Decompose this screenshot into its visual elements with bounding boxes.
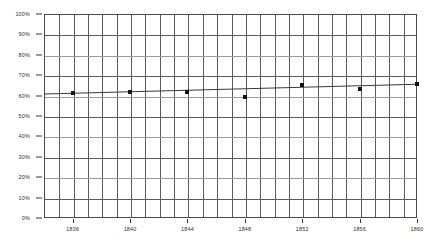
data-point <box>243 95 247 99</box>
x-axis-tick-label: 1844 <box>181 226 194 232</box>
y-axis-tick-label: 0% <box>22 215 30 221</box>
gridline-vertical <box>88 15 89 217</box>
y-axis-tick-label: 50% <box>19 113 30 119</box>
gridline-horizontal <box>45 178 416 179</box>
y-axis-tick-mark <box>36 218 42 219</box>
y-axis-tick-mark <box>36 14 42 15</box>
gridline-vertical <box>275 15 276 217</box>
y-axis-label-group: 100%90%80%70%60%50%40%30%20%10%0% <box>0 0 30 241</box>
gridline-vertical <box>361 15 362 217</box>
data-point <box>185 90 189 94</box>
gridline-vertical <box>59 15 60 217</box>
gridline-vertical <box>74 15 75 217</box>
x-axis-tick-label: 1840 <box>124 226 137 232</box>
gridline-horizontal <box>45 97 416 98</box>
y-axis-tick-label: 70% <box>19 72 30 78</box>
x-axis-tick-mark <box>245 219 246 223</box>
y-axis-tick-label: 100% <box>15 11 30 17</box>
gridline-vertical <box>102 15 103 217</box>
gridline-horizontal <box>45 56 416 57</box>
y-axis-tick-mark <box>36 156 42 157</box>
data-point <box>71 91 75 95</box>
y-axis-tick-mark <box>36 197 42 198</box>
y-axis-tick-label: 90% <box>19 31 30 37</box>
y-axis-tick-label: 30% <box>19 154 30 160</box>
data-point <box>415 82 419 86</box>
gridline-vertical <box>318 15 319 217</box>
gridline-vertical <box>389 15 390 217</box>
y-axis-tick-mark <box>36 54 42 55</box>
chart-container: 100%90%80%70%60%50%40%30%20%10%0% 183618… <box>0 0 433 241</box>
gridline-vertical <box>131 15 132 217</box>
gridline-vertical <box>404 15 405 217</box>
y-axis-tick-mark <box>36 95 42 96</box>
gridline-vertical <box>346 15 347 217</box>
x-axis-tick-label: 1856 <box>353 226 366 232</box>
gridline-horizontal <box>45 158 416 159</box>
gridline-vertical <box>332 15 333 217</box>
gridline-horizontal <box>45 199 416 200</box>
y-axis-tick-label: 80% <box>19 52 30 58</box>
gridline-vertical <box>160 15 161 217</box>
gridline-vertical <box>188 15 189 217</box>
data-point <box>358 87 362 91</box>
x-axis-tick-label: 1848 <box>238 226 251 232</box>
x-axis-tick-mark <box>187 219 188 223</box>
y-axis-tick-label: 60% <box>19 93 30 99</box>
y-axis-tick-mark <box>36 177 42 178</box>
gridline-horizontal <box>45 117 416 118</box>
gridline-vertical <box>375 15 376 217</box>
gridline-vertical <box>303 15 304 217</box>
gridline-horizontal <box>45 35 416 36</box>
x-axis-tick-label: 1852 <box>296 226 309 232</box>
y-axis-tick-label: 20% <box>19 174 30 180</box>
gridline-vertical <box>203 15 204 217</box>
x-axis-tick-mark <box>130 219 131 223</box>
gridline-vertical <box>174 15 175 217</box>
y-axis-tick-mark <box>36 75 42 76</box>
gridline-vertical <box>217 15 218 217</box>
x-axis-tick-mark <box>360 219 361 223</box>
x-axis-tick-label: 1860 <box>411 226 424 232</box>
data-point <box>300 83 304 87</box>
gridline-horizontal <box>45 137 416 138</box>
gridline-vertical <box>260 15 261 217</box>
y-axis-tick-label: 10% <box>19 195 30 201</box>
gridline-horizontal <box>45 76 416 77</box>
y-axis-tick-mark <box>36 116 42 117</box>
gridline-vertical <box>117 15 118 217</box>
x-axis-tick-mark <box>417 219 418 223</box>
gridline-vertical <box>232 15 233 217</box>
y-axis-tick-label: 40% <box>19 133 30 139</box>
x-axis-tick-label: 1836 <box>66 226 79 232</box>
data-point <box>128 90 132 94</box>
plot-area <box>44 14 417 218</box>
y-axis-tick-mark <box>36 136 42 137</box>
y-axis-tick-mark <box>36 34 42 35</box>
gridline-vertical <box>145 15 146 217</box>
gridline-vertical <box>246 15 247 217</box>
x-axis-tick-mark <box>73 219 74 223</box>
gridline-vertical <box>289 15 290 217</box>
x-axis-tick-mark <box>302 219 303 223</box>
